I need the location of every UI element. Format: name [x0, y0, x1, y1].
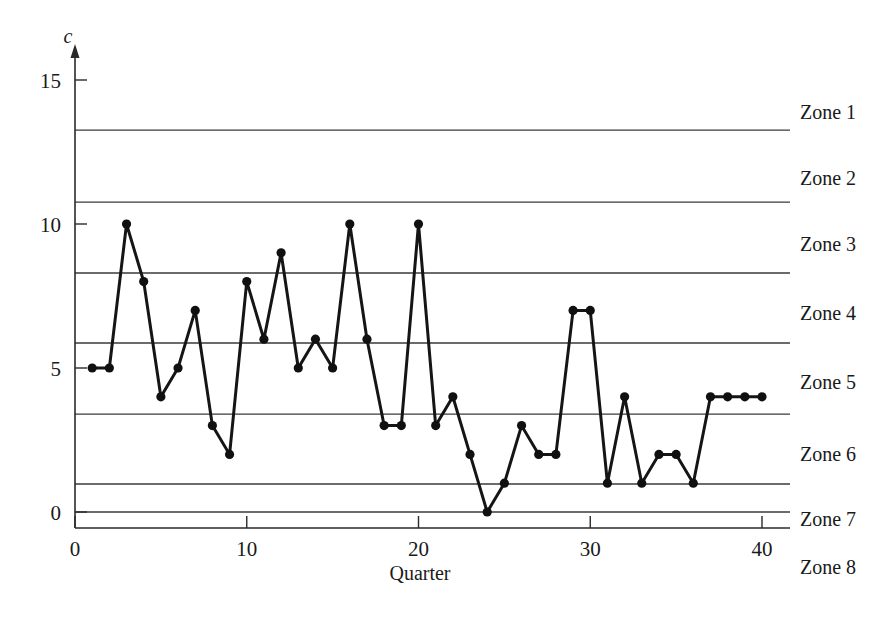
data-point-marker [208, 421, 217, 430]
data-point-marker [173, 363, 182, 372]
zone-label-4: Zone 4 [800, 302, 856, 324]
data-point-marker [672, 450, 681, 459]
data-point-marker [105, 363, 114, 372]
data-point-marker [191, 306, 200, 315]
data-point-marker [517, 421, 526, 430]
data-point-marker [294, 363, 303, 372]
data-point-marker [139, 277, 148, 286]
x-tick-label-2: 20 [408, 537, 429, 561]
data-point-marker [534, 450, 543, 459]
x-tick-label-3: 30 [580, 537, 601, 561]
y-tick-label-2: 10 [40, 213, 61, 237]
c-chart-figure: 051015 010203040 c Quarter Zone 1Zone 2Z… [0, 0, 893, 628]
data-point-marker [88, 363, 97, 372]
data-point-marker [723, 392, 732, 401]
data-point-marker [654, 450, 663, 459]
y-axis [71, 44, 80, 528]
data-point-marker [277, 248, 286, 257]
zone-boundary-lines [75, 130, 790, 512]
zone-label-1: Zone 1 [800, 101, 856, 123]
x-tick-label-0: 0 [70, 537, 81, 561]
zone-label-5: Zone 5 [800, 371, 856, 393]
data-point-marker [637, 479, 646, 488]
data-point-marker [431, 421, 440, 430]
data-point-marker [740, 392, 749, 401]
data-point-marker [568, 306, 577, 315]
chart-page: 051015 010203040 c Quarter Zone 1Zone 2Z… [0, 0, 893, 628]
data-point-marker [620, 392, 629, 401]
data-point-marker [225, 450, 234, 459]
y-tick-label-3: 15 [40, 69, 61, 93]
data-point-marker [397, 421, 406, 430]
x-tick-label-4: 40 [752, 537, 773, 561]
data-point-marker [156, 392, 165, 401]
data-point-marker [603, 479, 612, 488]
zone-label-8: Zone 8 [800, 556, 856, 578]
x-tick-label-1: 10 [236, 537, 257, 561]
zone-label-2: Zone 2 [800, 167, 856, 189]
data-point-marker [706, 392, 715, 401]
y-axis-ticks: 051015 [40, 69, 87, 525]
data-point-marker [448, 392, 457, 401]
series-line-c [92, 224, 762, 512]
y-tick-label-0: 0 [51, 501, 62, 525]
x-axis-ticks: 010203040 [70, 516, 773, 561]
data-point-marker [311, 335, 320, 344]
data-point-marker [122, 219, 131, 228]
data-point-marker [586, 306, 595, 315]
data-point-marker [757, 392, 766, 401]
data-point-marker [242, 277, 251, 286]
data-point-marker [500, 479, 509, 488]
y-axis-title: c [64, 25, 73, 47]
data-point-marker [362, 335, 371, 344]
data-point-marker [483, 507, 492, 516]
data-point-marker [328, 363, 337, 372]
data-point-marker [689, 479, 698, 488]
zone-label-list: Zone 1Zone 2Zone 3Zone 4Zone 5Zone 6Zone… [800, 101, 856, 578]
series-markers [88, 219, 767, 516]
x-axis-title: Quarter [389, 562, 450, 584]
data-point-marker [380, 421, 389, 430]
data-point-marker [259, 335, 268, 344]
data-point-marker [551, 450, 560, 459]
data-point-marker [465, 450, 474, 459]
data-point-marker [414, 219, 423, 228]
data-point-marker [345, 219, 354, 228]
zone-label-3: Zone 3 [800, 233, 856, 255]
zone-label-7: Zone 7 [800, 508, 856, 530]
zone-label-6: Zone 6 [800, 443, 856, 465]
y-tick-label-1: 5 [51, 357, 62, 381]
